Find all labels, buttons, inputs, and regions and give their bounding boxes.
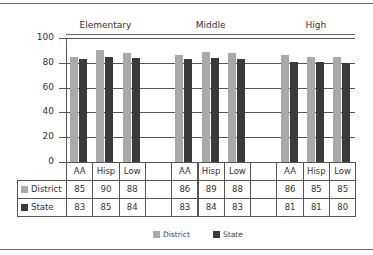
y-tick-label: 100 — [28, 32, 54, 42]
legend-swatch — [21, 186, 28, 193]
table-cell: 80 — [329, 198, 356, 217]
y-tick-mark — [59, 38, 66, 39]
table-cell — [145, 180, 172, 199]
table-cell: 90 — [92, 180, 119, 199]
legend-swatch — [153, 231, 160, 238]
y-tick-label: 80 — [28, 57, 54, 67]
table-cell — [250, 198, 277, 217]
table-cell: 83 — [171, 198, 198, 217]
bar-district — [202, 52, 210, 162]
bar-state — [342, 63, 350, 162]
table-cell: 83 — [66, 198, 93, 217]
y-tick-label: 40 — [28, 106, 54, 116]
row-name: State — [31, 199, 54, 216]
legend-item-state: State — [213, 230, 243, 239]
table-row-label: State — [17, 198, 67, 217]
table-cell: 85 — [66, 180, 93, 199]
table-header-cell: AA — [276, 162, 303, 181]
legend-label: State — [223, 230, 243, 239]
table-cell: 81 — [303, 198, 330, 217]
bar-state — [290, 62, 298, 162]
bar-district — [96, 50, 104, 162]
table-cell — [250, 180, 277, 199]
bar-district — [333, 57, 341, 162]
table-header-cell: Hisp — [198, 162, 225, 181]
bar-district — [307, 57, 315, 162]
bar-district — [228, 53, 236, 162]
table-cell: 86 — [171, 180, 198, 199]
bar-district — [123, 53, 131, 162]
table-header-cell: Hisp — [92, 162, 119, 181]
table-header-cell: Low — [224, 162, 251, 181]
legend-label: District — [163, 230, 190, 239]
header-line — [66, 34, 355, 35]
table-cell: 84 — [198, 198, 225, 217]
table-header-cell — [250, 162, 277, 181]
bar-district — [175, 55, 183, 162]
table-cell: 81 — [276, 198, 303, 217]
gridline — [66, 38, 355, 39]
y-tick-mark — [59, 137, 66, 138]
group-title: Middle — [171, 20, 251, 30]
y-tick-mark — [59, 162, 66, 163]
table-header-cell: AA — [171, 162, 198, 181]
legend-item-district: District — [153, 230, 190, 239]
table-cell: 88 — [224, 180, 251, 199]
table-cell: 85 — [329, 180, 356, 199]
y-tick-mark — [59, 112, 66, 113]
table-header-cell: Low — [119, 162, 146, 181]
table-header-cell: AA — [66, 162, 93, 181]
group-title: High — [276, 20, 356, 30]
table-cell: 88 — [119, 180, 146, 199]
y-tick-label: 20 — [28, 131, 54, 141]
bar-district — [70, 57, 78, 162]
table-cell: 86 — [276, 180, 303, 199]
bar-state — [316, 62, 324, 162]
table-header-cell: Hisp — [303, 162, 330, 181]
bar-state — [105, 57, 113, 162]
bar-state — [132, 58, 140, 162]
table-cell: 89 — [198, 180, 225, 199]
top-rule — [0, 3, 373, 4]
bottom-rule — [0, 249, 373, 250]
y-tick-mark — [59, 63, 66, 64]
table-cell: 84 — [119, 198, 146, 217]
y-tick-mark — [59, 88, 66, 89]
bar-state — [79, 59, 87, 162]
bar-state — [211, 58, 219, 162]
y-axis — [66, 38, 67, 162]
table-cell: 83 — [224, 198, 251, 217]
group-title: Elementary — [65, 20, 145, 30]
legend-swatch — [213, 231, 220, 238]
table-cell — [145, 198, 172, 217]
table-row-label: District — [17, 180, 67, 199]
bar-district — [281, 55, 289, 162]
row-name: District — [31, 181, 62, 198]
bar-state — [184, 59, 192, 162]
table-header-cell: Low — [329, 162, 356, 181]
y-tick-label: 60 — [28, 82, 54, 92]
bar-state — [237, 59, 245, 162]
legend-swatch — [21, 204, 28, 211]
y-tick-label: 0 — [28, 156, 54, 166]
table-cell: 85 — [303, 180, 330, 199]
table-cell: 85 — [92, 198, 119, 217]
table-header-cell — [145, 162, 172, 181]
